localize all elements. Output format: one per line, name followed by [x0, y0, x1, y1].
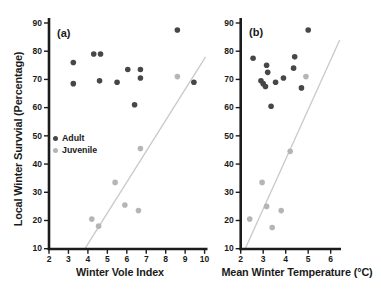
adult-legend-dot-icon	[53, 136, 58, 141]
x-tick-label: 9	[183, 254, 188, 264]
y-tick-label: 30	[224, 187, 234, 197]
data-point-juvenile	[96, 223, 102, 229]
x-tick-label: 3	[261, 254, 266, 264]
legend-label-adult: Adult	[62, 132, 84, 144]
data-point-adult	[292, 54, 298, 60]
data-point-adult	[114, 79, 120, 85]
data-point-adult	[97, 78, 103, 84]
y-tick-label: 20	[33, 215, 43, 225]
data-point-adult	[268, 103, 274, 109]
x-tick-label: 6	[328, 254, 333, 264]
data-point-juvenile	[136, 208, 142, 214]
y-axis-title: Local Winter Survvial (Percentage)	[12, 52, 24, 227]
data-point-juvenile	[278, 208, 284, 214]
panel-b-xaxis-title: Mean Winter Temperature (°C)	[222, 266, 372, 278]
y-tick-label: 10	[33, 243, 43, 253]
panel-b-xaxis-title-text: Mean Winter Temperature (°C)	[221, 266, 372, 278]
data-point-adult	[138, 75, 144, 81]
panel-b-label: (b)	[249, 26, 263, 38]
legend: Adult Juvenile	[53, 132, 97, 156]
data-point-adult	[71, 60, 77, 66]
data-point-adult	[132, 102, 138, 108]
data-point-adult	[299, 85, 305, 91]
y-tick-label: 60	[33, 102, 43, 112]
data-point-juvenile	[264, 204, 270, 210]
data-point-adult	[138, 67, 144, 73]
y-tick-label: 90	[33, 18, 43, 28]
y-tick-label: 70	[224, 74, 234, 84]
data-point-adult	[281, 75, 287, 81]
data-point-juvenile	[112, 180, 118, 186]
trendline	[85, 57, 206, 249]
x-tick-label: 5	[105, 254, 110, 264]
data-point-adult	[191, 79, 197, 85]
data-point-adult	[71, 81, 77, 87]
juvenile-legend-dot-icon	[53, 148, 58, 153]
legend-item-adult: Adult	[53, 132, 97, 144]
data-point-juvenile	[122, 202, 128, 208]
data-point-adult	[273, 79, 279, 85]
panel-a-xaxis-title-text: Winter Vole Index	[76, 266, 164, 278]
y-tick-label: 30	[33, 187, 43, 197]
data-point-adult	[305, 27, 311, 33]
panel-a-label: (a)	[57, 27, 70, 39]
legend-label-juvenile: Juvenile	[62, 144, 97, 156]
data-point-juvenile	[259, 180, 265, 186]
y-tick-label: 50	[33, 131, 43, 141]
y-tick-label: 50	[224, 131, 234, 141]
data-point-juvenile	[138, 146, 144, 152]
data-point-adult	[265, 70, 271, 76]
data-point-adult	[291, 65, 297, 71]
data-point-juvenile	[287, 149, 293, 155]
data-point-adult	[98, 51, 104, 57]
figure-container: 1020304050607080902345678910102030405060…	[0, 0, 381, 291]
x-tick-label: 5	[306, 254, 311, 264]
data-point-adult	[264, 63, 270, 69]
x-tick-label: 4	[283, 254, 288, 264]
x-tick-label: 10	[200, 254, 210, 264]
x-tick-label: 4	[86, 254, 91, 264]
data-point-adult	[125, 67, 131, 73]
y-tick-label: 80	[224, 46, 234, 56]
y-tick-label: 20	[224, 215, 234, 225]
data-point-juvenile	[303, 74, 309, 80]
data-point-juvenile	[269, 225, 275, 231]
y-tick-label: 80	[33, 46, 43, 56]
data-point-adult	[175, 27, 181, 33]
y-tick-label: 10	[224, 243, 234, 253]
data-point-adult	[263, 84, 269, 90]
x-tick-label: 8	[163, 254, 168, 264]
x-tick-label: 7	[144, 254, 149, 264]
y-tick-label: 90	[224, 18, 234, 28]
data-point-juvenile	[89, 216, 95, 222]
y-tick-label: 70	[33, 74, 43, 84]
data-point-adult	[91, 51, 97, 57]
x-tick-label: 3	[66, 254, 71, 264]
x-tick-label: 6	[124, 254, 129, 264]
data-point-juvenile	[175, 74, 181, 80]
y-tick-label: 40	[224, 159, 234, 169]
y-tick-label: 40	[33, 159, 43, 169]
x-tick-label: 2	[238, 254, 243, 264]
x-tick-label: 2	[47, 254, 52, 264]
legend-item-juvenile: Juvenile	[53, 144, 97, 156]
data-point-adult	[250, 55, 256, 61]
trendline	[245, 40, 340, 249]
panel-a-xaxis-title: Winter Vole Index	[42, 266, 198, 278]
y-tick-label: 60	[224, 102, 234, 112]
data-point-juvenile	[247, 216, 253, 222]
